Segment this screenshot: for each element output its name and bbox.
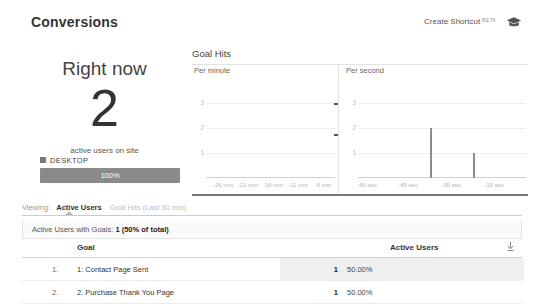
sort-descending-arrow-icon[interactable]	[507, 242, 514, 251]
viewing-switcher: Viewing:Active UsersGoal Hits (Last 30 m…	[22, 203, 522, 212]
bar-per-second-2	[430, 128, 432, 178]
page-title: Conversions	[31, 14, 118, 30]
device-legend-swatch-icon	[40, 157, 46, 163]
charts-bottom-rule	[192, 194, 528, 196]
goals-table: Goal Active Users 1. 1: Contact Page Sen…	[22, 238, 522, 304]
row-active-users: 1	[318, 288, 338, 297]
create-shortcut-button[interactable]: Create ShortcutBETA	[424, 17, 496, 26]
row-active-users: 1	[318, 265, 338, 274]
per-second-chart: Per second 3 2 1 -60 sec -45 sec -30 sec…	[344, 66, 528, 196]
device-legend-label: DESKTOP	[50, 156, 89, 165]
bar-per-second-1	[473, 153, 475, 178]
page-header: Conversions Create ShortcutBETA	[0, 0, 544, 40]
x-tick: -26 min	[210, 182, 236, 188]
y-tick: 2	[346, 124, 356, 131]
device-legend-desktop[interactable]: DESKTOP	[40, 156, 89, 165]
row-goal-name[interactable]: 1: Contact Page Sent	[77, 265, 148, 274]
row-index: 1.	[52, 265, 58, 274]
per-second-plot: 3 2 1 -60 sec -45 sec -30 sec -15 sec	[358, 78, 526, 178]
per-second-label: Per second	[346, 66, 384, 75]
per-minute-chart: Per minute 3 2 1 -26 min -21 min -16 min…	[192, 66, 337, 196]
table-row[interactable]: 2. 2. Purchase Thank You Page 1 50.00%	[22, 281, 522, 304]
right-now-title: Right now	[22, 58, 187, 80]
y-tick: 1	[194, 149, 204, 156]
per-minute-plot: 3 2 1 -26 min -21 min -16 min -11 min -6…	[206, 78, 335, 178]
table-row[interactable]: 1. 1: Contact Page Sent 1 50.00%	[22, 258, 522, 281]
row-goal-name[interactable]: 2. Purchase Thank You Page	[77, 288, 174, 297]
x-tick: -45 sec	[393, 182, 423, 188]
x-tick: -21 min	[235, 182, 261, 188]
right-now-panel: Right now 2 active users on site DESKTOP…	[22, 50, 187, 195]
viewing-label: Viewing:	[22, 203, 50, 212]
x-tick: -11 min	[285, 182, 311, 188]
per-second-x-axis	[358, 177, 526, 178]
summary-prefix: Active Users with Goals:	[32, 225, 113, 234]
y-tick: 2	[194, 124, 204, 131]
x-tick: -6 min	[310, 182, 336, 188]
create-shortcut-label: Create Shortcut	[424, 17, 480, 26]
per-minute-label: Per minute	[194, 66, 230, 75]
row-index: 2.	[52, 288, 58, 297]
goal-hits-charts: Goal Hits Per minute 3 2 1 -26 min -21 m…	[192, 48, 528, 196]
goal-hits-title: Goal Hits	[192, 48, 231, 59]
y-tick: 1	[346, 149, 356, 156]
summary-strip: Active Users with Goals: 1 (50% of total…	[22, 220, 522, 239]
x-tick: -16 min	[260, 182, 286, 188]
viewing-divider	[22, 215, 522, 216]
row-percent: 50.00%	[347, 265, 372, 274]
summary-text: Active Users with Goals: 1 (50% of total…	[32, 225, 169, 234]
charts-top-divider	[192, 64, 528, 65]
charts-vertical-divider	[338, 66, 339, 194]
table-header-row: Goal Active Users	[22, 238, 522, 258]
y-tick: 3	[346, 99, 356, 106]
device-share-value: 100%	[40, 168, 180, 183]
beta-badge: BETA	[482, 17, 496, 23]
row-percent: 50.00%	[347, 288, 372, 297]
device-share-bar: 100%	[40, 168, 180, 183]
active-users-caption: active users on site	[22, 146, 187, 155]
gridline	[206, 153, 335, 154]
gridline	[358, 153, 526, 154]
edge-marker	[334, 103, 338, 105]
edge-marker	[334, 134, 338, 136]
gridline	[206, 103, 335, 104]
tab-goal-hits[interactable]: Goal Hits (Last 30 min)	[110, 203, 187, 212]
row-value-bar	[280, 258, 524, 280]
gridline	[358, 128, 526, 129]
per-minute-x-axis	[206, 177, 335, 178]
x-tick: -30 sec	[436, 182, 466, 188]
graduation-cap-icon[interactable]	[506, 16, 522, 28]
gridline	[358, 103, 526, 104]
x-tick: -15 sec	[479, 182, 509, 188]
active-users-count: 2	[22, 80, 187, 136]
column-header-active-users[interactable]: Active Users	[390, 243, 438, 252]
x-tick: -60 sec	[352, 182, 382, 188]
column-header-goal[interactable]: Goal	[77, 243, 95, 252]
gridline	[206, 128, 335, 129]
summary-value: 1	[115, 225, 119, 234]
summary-detail: (50% of total)	[122, 225, 169, 234]
y-tick: 3	[194, 99, 204, 106]
tab-active-users[interactable]: Active Users	[56, 203, 101, 212]
